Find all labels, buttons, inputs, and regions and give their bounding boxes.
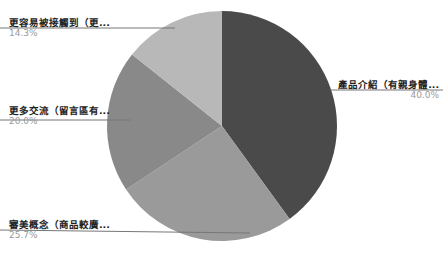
slice-label-3-pct: 14.3%	[9, 28, 110, 39]
slice-label-1: 審美概念（商品較廣... 25.7%	[9, 219, 110, 241]
slice-label-3-name: 更容易被接觸到（更...	[9, 17, 110, 28]
slice-label-1-name: 審美概念（商品較廣...	[9, 219, 110, 230]
slice-label-2-name: 更多交流（留言區有...	[9, 105, 110, 116]
pie-chart: 產品介紹（有親身體... 40.0% 審美概念（商品較廣... 25.7% 更多…	[0, 0, 443, 254]
slice-label-3: 更容易被接觸到（更... 14.3%	[9, 17, 110, 39]
slice-label-0: 產品介紹（有親身體... 40.0%	[338, 79, 439, 101]
slice-label-0-pct: 40.0%	[338, 90, 439, 101]
slice-label-1-pct: 25.7%	[9, 230, 110, 241]
slice-label-2: 更多交流（留言區有... 20.0%	[9, 105, 110, 127]
slice-label-0-name: 產品介紹（有親身體...	[338, 79, 439, 90]
slice-label-2-pct: 20.0%	[9, 116, 110, 127]
